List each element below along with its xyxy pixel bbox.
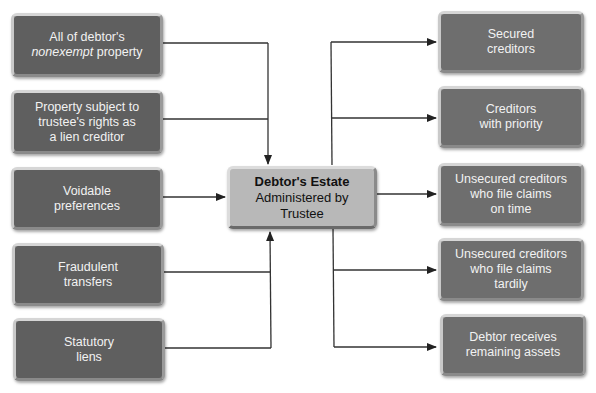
source-label: All of debtor's (31, 30, 142, 45)
source-label: transfers (58, 275, 118, 290)
distribution-label: on time (455, 202, 567, 217)
source-label: trustee's rights as (35, 115, 139, 130)
source-label: Fraudulent (58, 260, 118, 275)
source-box-fraudulent-transfers: Fraudulent transfers (12, 243, 164, 306)
trunk-up (331, 42, 332, 165)
distribution-label: who file claims (455, 187, 567, 202)
source-label: Statutory (64, 335, 114, 350)
center-label: Trustee (255, 206, 350, 222)
center-label: Administered by (255, 190, 350, 206)
source-box-statutory-liens: Statutory liens (13, 318, 165, 381)
distribution-label: who file claims (455, 262, 567, 277)
center-box-debtors-estate: Debtor's Estate Administered by Trustee (227, 166, 377, 229)
distribution-box-unsecured-tardily: Unsecured creditors who file claims tard… (438, 238, 584, 301)
distribution-label: creditors (487, 42, 535, 57)
source-box-nonexempt-property: All of debtor's nonexempt property (11, 13, 163, 77)
source-label: liens (64, 350, 114, 365)
source-box-lien-creditor: Property subject to trustee's rights as … (11, 90, 163, 154)
source-label: Voidable (54, 184, 120, 199)
distribution-label: remaining assets (466, 345, 561, 360)
source-label: preferences (54, 199, 120, 214)
source-label: a lien creditor (35, 130, 139, 145)
distribution-label: Unsecured creditors (455, 172, 567, 187)
distribution-label: with priority (479, 117, 542, 132)
source-label-line2: nonexempt property (31, 45, 142, 60)
distribution-label: Unsecured creditors (455, 247, 567, 262)
source-box-voidable-preferences: Voidable preferences (11, 167, 163, 230)
source-label: Property subject to (35, 100, 139, 115)
emphasis-nonexempt: nonexempt (31, 45, 93, 59)
distribution-label: Secured (487, 27, 535, 42)
distribution-label: tardily (455, 277, 567, 292)
distribution-box-debtor-remaining: Debtor receives remaining assets (440, 314, 586, 376)
distribution-label: Creditors (479, 102, 542, 117)
center-title: Debtor's Estate (255, 174, 350, 190)
distribution-box-unsecured-on-time: Unsecured creditors who file claims on t… (438, 163, 584, 226)
distribution-box-priority-creditors: Creditors with priority (438, 86, 584, 148)
arrow-into-center-bottom (270, 232, 271, 348)
distribution-box-secured-creditors: Secured creditors (438, 11, 584, 73)
distribution-label: Debtor receives (466, 330, 561, 345)
source-label: property (93, 45, 142, 59)
trunk-down (333, 229, 334, 347)
